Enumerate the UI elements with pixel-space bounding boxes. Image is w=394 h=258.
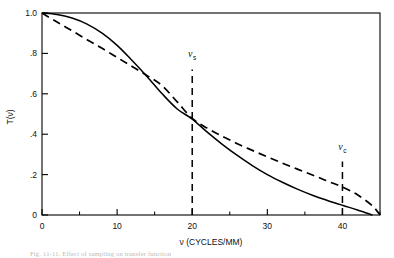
y-tick-label-0p2: .2 (30, 170, 37, 180)
data-curves (42, 13, 380, 215)
nu-s-marker-label: νs (188, 48, 197, 61)
y-tick-label-0p6: .6 (30, 89, 37, 99)
x-axis-ticks (42, 209, 380, 215)
y-tick-label-0p4: .4 (30, 129, 37, 139)
x-tick-label-40: 40 (338, 221, 348, 231)
nu-c-marker-label: νc (338, 141, 347, 154)
y-tick-label-0p8: .8 (30, 48, 37, 58)
y-axis-title: T(ν) (5, 109, 15, 124)
mtf-chart: 010203040 0.2.4.6.81.0 νsνc ν (CYCLES/MM… (0, 0, 394, 258)
nu-c-marker-subscript: c (343, 147, 347, 154)
x-tick-label-10: 10 (112, 221, 122, 231)
solid-mtf-curve (42, 13, 372, 215)
x-axis-title: ν (CYCLES/MM) (180, 237, 243, 247)
y-axis-ticks (42, 13, 48, 215)
dashed-mtf-curve (42, 13, 380, 215)
figure-container: 010203040 0.2.4.6.81.0 νsνc ν (CYCLES/MM… (0, 0, 394, 258)
annotation-labels: νsνc (188, 48, 347, 153)
x-tick-label-0: 0 (40, 221, 45, 231)
nu-s-marker-subscript: s (193, 54, 197, 61)
x-axis-tick-labels: 010203040 (40, 221, 348, 231)
x-tick-label-30: 30 (263, 221, 273, 231)
annotation-marker-lines (192, 70, 342, 215)
y-tick-label-1: 1.0 (25, 8, 37, 18)
x-tick-label-20: 20 (187, 221, 197, 231)
y-tick-label-0: 0 (32, 210, 37, 220)
y-axis-tick-labels: 0.2.4.6.81.0 (25, 8, 37, 220)
figure-caption: Fig. 11-11. Effect of sampling on transf… (30, 250, 360, 257)
